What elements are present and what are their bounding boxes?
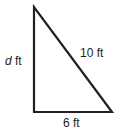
vertical-side-label: d ft bbox=[5, 54, 22, 68]
vertical-side-variable: d bbox=[5, 54, 12, 68]
hypotenuse-label: 10 ft bbox=[80, 46, 103, 60]
vertical-side-unit: ft bbox=[12, 54, 22, 68]
base-label: 6 ft bbox=[63, 116, 80, 130]
